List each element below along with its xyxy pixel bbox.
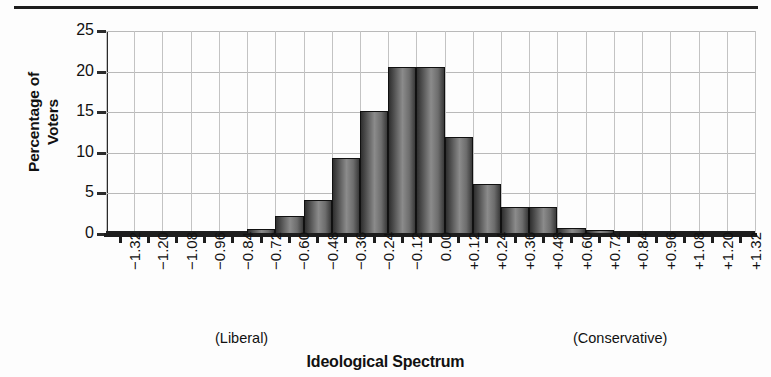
y-axis-tick-label: 15 bbox=[60, 102, 94, 120]
x-axis-tick-label: +0.96 bbox=[662, 232, 679, 322]
y-axis-tick-label: 25 bbox=[60, 21, 94, 39]
gridline-vertical bbox=[134, 31, 135, 234]
x-axis-tick-mark bbox=[485, 234, 488, 243]
x-axis-tick-label: +1.20 bbox=[719, 232, 736, 322]
bar bbox=[445, 137, 473, 234]
x-axis-tick-label: −1.32 bbox=[126, 232, 143, 322]
x-axis-tick-mark bbox=[288, 234, 291, 243]
gridline-vertical bbox=[586, 31, 587, 234]
x-axis-tick-mark bbox=[514, 234, 517, 243]
bar bbox=[388, 67, 416, 234]
x-axis-tick-mark bbox=[203, 234, 206, 243]
gridline-vertical bbox=[755, 31, 756, 234]
x-axis-tick-mark bbox=[373, 234, 376, 243]
liberal-anchor-label: (Liberal) bbox=[215, 330, 268, 346]
y-axis-tick-label: 5 bbox=[60, 183, 94, 201]
x-axis-tick-label: +0.36 bbox=[521, 232, 538, 322]
gridline-vertical bbox=[699, 31, 700, 234]
x-axis-tick-mark bbox=[344, 234, 347, 243]
x-axis-tick-label: +0.12 bbox=[465, 232, 482, 322]
x-axis-tick-label: −0.36 bbox=[352, 232, 369, 322]
x-axis-tick-label: −1.20 bbox=[154, 232, 171, 322]
x-axis-tick-mark bbox=[683, 234, 686, 243]
x-axis-tick-label: −0.60 bbox=[295, 232, 312, 322]
gridline-vertical bbox=[162, 31, 163, 234]
y-axis-tick-label: 10 bbox=[60, 143, 94, 161]
x-axis-tick-mark bbox=[739, 234, 742, 243]
bar bbox=[501, 207, 529, 234]
y-axis-tick-mark bbox=[97, 152, 106, 155]
y-axis-tick-mark bbox=[97, 71, 106, 74]
histogram-figure: Percentage of Voters 0510152025 −1.32−1.… bbox=[0, 0, 771, 377]
x-axis-tick-mark bbox=[401, 234, 404, 243]
gridline-vertical bbox=[727, 31, 728, 234]
bar bbox=[416, 67, 445, 234]
x-axis-tick-mark bbox=[542, 234, 545, 243]
x-axis-tick-label: +0.60 bbox=[578, 232, 595, 322]
x-axis-tick-mark bbox=[711, 234, 714, 243]
gridline-vertical bbox=[501, 31, 502, 234]
x-axis-tick-mark bbox=[570, 234, 573, 243]
gridline-vertical bbox=[670, 31, 671, 234]
x-axis-tick-mark bbox=[316, 234, 319, 243]
x-axis-tick-mark bbox=[231, 234, 234, 243]
gridline-vertical bbox=[642, 31, 643, 234]
y-axis-tick-mark bbox=[97, 111, 106, 114]
bar bbox=[473, 184, 501, 234]
gridline-horizontal bbox=[106, 31, 755, 32]
bar bbox=[332, 158, 360, 234]
gridline-vertical bbox=[106, 31, 107, 234]
x-axis-tick-mark bbox=[260, 234, 263, 243]
y-axis-tick-label: 20 bbox=[60, 62, 94, 80]
bar bbox=[304, 200, 332, 234]
x-axis-tick-label: +0.48 bbox=[549, 232, 566, 322]
x-axis-tick-label: −0.12 bbox=[408, 232, 425, 322]
gridline-vertical bbox=[191, 31, 192, 234]
y-axis-title-line-1: Percentage of bbox=[24, 42, 43, 202]
bar bbox=[529, 207, 557, 234]
y-axis-tick-mark bbox=[97, 192, 106, 195]
x-axis-tick-label: +1.08 bbox=[690, 232, 707, 322]
bar bbox=[360, 111, 388, 234]
gridline-vertical bbox=[557, 31, 558, 234]
conservative-anchor-label: (Conservative) bbox=[573, 330, 667, 346]
x-axis-tick-label: −0.84 bbox=[239, 232, 256, 322]
plot-area bbox=[106, 31, 755, 234]
x-axis-tick-label: −0.72 bbox=[267, 232, 284, 322]
x-axis-tick-mark bbox=[429, 234, 432, 243]
x-axis-tick-label: 0.00 bbox=[437, 232, 454, 322]
gridline-vertical bbox=[275, 31, 276, 234]
x-axis-tick-mark bbox=[147, 234, 150, 243]
x-axis-tick-mark bbox=[655, 234, 658, 243]
x-axis-tick-label: −0.48 bbox=[324, 232, 341, 322]
x-axis-tick-mark bbox=[175, 234, 178, 243]
x-axis-title: Ideological Spectrum bbox=[0, 353, 771, 371]
x-axis-tick-mark bbox=[598, 234, 601, 243]
gridline-vertical bbox=[247, 31, 248, 234]
y-axis-tick-mark bbox=[97, 30, 106, 33]
y-axis-tick-label: 0 bbox=[60, 224, 94, 242]
gridline-vertical bbox=[219, 31, 220, 234]
x-axis-tick-label: −0.96 bbox=[211, 232, 228, 322]
x-axis-tick-label: +0.72 bbox=[606, 232, 623, 322]
x-axis-tick-label: −0.24 bbox=[380, 232, 397, 322]
x-axis-tick-mark bbox=[457, 234, 460, 243]
gridline-vertical bbox=[529, 31, 530, 234]
x-axis-tick-label: −1.08 bbox=[183, 232, 200, 322]
x-axis-tick-label: +0.84 bbox=[634, 232, 651, 322]
x-axis-tick-mark bbox=[119, 234, 122, 243]
gridline-vertical bbox=[614, 31, 615, 234]
x-axis-tick-label: +1.32 bbox=[747, 232, 764, 322]
x-axis-tick-mark bbox=[627, 234, 630, 243]
top-divider-rule bbox=[14, 6, 758, 9]
x-axis-tick-label: +0.24 bbox=[493, 232, 510, 322]
